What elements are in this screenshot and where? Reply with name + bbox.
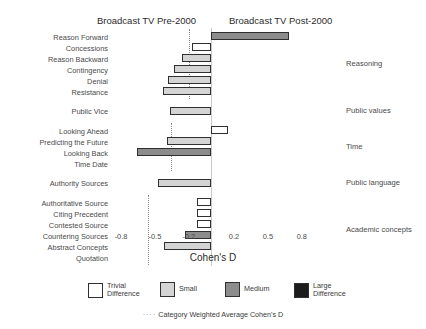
- bar: [197, 198, 212, 206]
- legend-swatch-trivial: [88, 283, 103, 298]
- legend-average-label: Category Weighted Average Cohen's D: [158, 310, 283, 319]
- x-axis-tick-label: -0.5: [149, 232, 162, 241]
- bar: [197, 220, 212, 228]
- y-axis-label: Concessions: [0, 44, 108, 53]
- y-axis-label: Resistance: [0, 88, 108, 97]
- legend-item-large: LargeDifference: [294, 282, 346, 299]
- bar: [211, 126, 228, 134]
- legend: TrivialDifferenceSmallMediumLargeDiffere…: [0, 282, 426, 310]
- header-left-title: Broadcast TV Pre-2000: [97, 15, 196, 26]
- y-axis-label: Citing Precedent: [0, 210, 108, 219]
- header-right-title: Broadcast TV Post-2000: [229, 15, 332, 26]
- y-axis-label: Looking Ahead: [0, 127, 108, 136]
- y-axis-label: Authority Sources: [0, 179, 108, 188]
- legend-average-note: ···· Category Weighted Average Cohen's D: [0, 310, 426, 319]
- y-axis-label: Denial: [0, 77, 108, 86]
- y-axis-label: Predicting the Future: [0, 138, 108, 147]
- legend-item-medium: Medium: [225, 282, 270, 297]
- bar: [167, 137, 211, 145]
- y-axis-label: Reason Forward: [0, 33, 108, 42]
- x-axis-tick-label: 0.5: [263, 232, 273, 241]
- bar: [197, 209, 212, 217]
- legend-label-large: LargeDifference: [313, 282, 346, 299]
- legend-label-small: Small: [179, 285, 197, 293]
- bar: [192, 43, 211, 51]
- plot-area: ReasoningPublic valuesTimePublic languag…: [0, 28, 426, 230]
- category-label-public-language: Public language: [346, 178, 400, 187]
- bar: [211, 32, 289, 40]
- legend-item-trivial: TrivialDifference: [88, 282, 140, 299]
- category-average-line: [171, 123, 172, 171]
- y-axis-label: Authoritative Source: [0, 199, 108, 208]
- bar: [168, 76, 211, 84]
- bar: [174, 65, 211, 73]
- legend-item-small: Small: [160, 282, 197, 297]
- legend-label-medium: Medium: [244, 285, 270, 293]
- category-label-public-values: Public values: [346, 106, 391, 115]
- y-axis-label: Reason Backward: [0, 55, 108, 64]
- dotted-line-swatch: ····: [143, 310, 157, 319]
- x-axis-tick-label: 0.2: [229, 232, 239, 241]
- legend-swatch-large: [294, 283, 309, 298]
- y-axis-label: Public Vice: [0, 107, 108, 116]
- y-axis-label: Looking Back: [0, 149, 108, 158]
- category-label-time: Time: [346, 142, 363, 151]
- x-axis-tick-label: -0.8: [115, 232, 128, 241]
- x-axis-tick-label: -0.2: [182, 232, 195, 241]
- category-label-reasoning: Reasoning: [346, 59, 382, 68]
- bar: [158, 179, 211, 187]
- y-axis-label: Time Date: [0, 160, 108, 169]
- bar: [170, 107, 212, 115]
- x-axis-title: Cohen's D: [0, 252, 426, 263]
- legend-label-trivial: TrivialDifference: [107, 282, 140, 299]
- bar: [137, 148, 212, 156]
- legend-swatch-medium: [225, 282, 240, 297]
- cohens-d-chart: Broadcast TV Pre-2000 Broadcast TV Post-…: [0, 0, 426, 329]
- bar: [182, 54, 211, 62]
- legend-swatch-small: [160, 282, 175, 297]
- bar: [163, 87, 212, 95]
- x-axis-tick-label: 0.8: [297, 232, 307, 241]
- y-axis-label: Contingency: [0, 66, 108, 75]
